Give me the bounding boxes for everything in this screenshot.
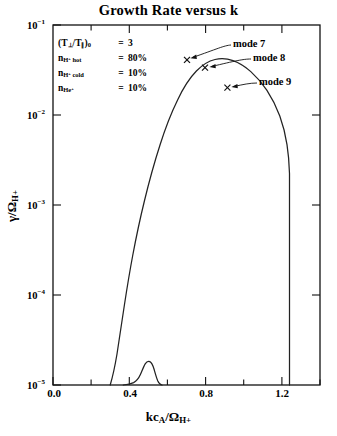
y-tick-label-2: 10−3 [27,198,45,211]
parameter-equals-0: = [114,37,128,51]
parameter-symbol-1: nH+ hot [58,52,114,67]
parameter-equals-2: = [114,67,128,81]
parameter-equals-1: = [114,52,128,66]
leader-mode-7 [190,45,231,59]
parameter-equals-3: = [114,82,128,96]
parameter-row-3: nHe+ = 10% [58,82,147,97]
parameter-value-3: 10% [128,82,147,96]
parameter-value-0: 3 [128,37,133,51]
y-axis-ticks-right [312,115,320,295]
parameter-value-1: 80% [128,52,147,66]
parameter-symbol-0: (T⊥/T∥)0 [58,37,114,52]
x-tick-label-3: 1.2 [275,387,289,399]
x-axis-ticks-top [91,25,282,33]
parameter-symbol-3: nHe+ [58,82,114,97]
annotation-label-mode-8: mode 8 [253,52,285,63]
parameter-annotation-box: (T⊥/T∥)0 = 3 nH+ hot = 80% nH+ cold = 10… [58,37,147,97]
parameter-row-1: nH+ hot = 80% [58,52,147,67]
leader-mode-9 [231,83,257,88]
parameter-row-0: (T⊥/T∥)0 = 3 [58,37,147,52]
x-axis-label: kcA/ΩH+ [0,409,337,425]
annotation-label-mode-7: mode 7 [233,38,265,49]
x-tick-label-2: 0.8 [199,387,213,399]
curve-main-branch [110,59,289,385]
y-tick-label-0: 10−1 [27,18,45,31]
y-tick-label-1: 10−2 [27,108,45,121]
growth-rate-figure: Growth Rate versus k [0,0,337,436]
marker-mode-9 [224,85,230,91]
y-axis-label: γ/ΩH+ [4,176,20,236]
marker-mode-7 [184,57,190,63]
parameter-symbol-2: nH+ cold [58,67,114,82]
plot-canvas [0,0,337,436]
parameter-value-2: 10% [128,67,147,81]
y-tick-label-3: 10−4 [27,288,45,301]
parameter-row-2: nH+ cold = 10% [58,67,147,82]
marker-mode-8 [202,65,208,71]
x-tick-label-0: 0.0 [47,387,61,399]
x-tick-label-1: 0.4 [123,387,137,399]
x-axis-ticks-bottom [53,377,320,385]
annotation-label-mode-9: mode 9 [259,76,291,87]
y-tick-label-4: 10−5 [27,378,45,391]
